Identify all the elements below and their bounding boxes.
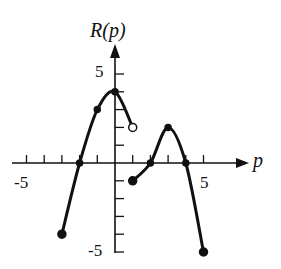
curve-right-piece xyxy=(133,127,204,252)
y-tick-label-5: 5 xyxy=(95,62,104,81)
open-endpoint-marker xyxy=(129,123,137,131)
x-axis-label: p xyxy=(251,149,263,172)
closed-point-marker xyxy=(183,160,189,166)
y-tick-label-neg5: -5 xyxy=(88,241,102,260)
y-axis-label: R(p) xyxy=(89,19,126,42)
point-markers xyxy=(58,89,208,256)
closed-point-marker xyxy=(58,230,66,238)
closed-point-marker xyxy=(147,160,153,166)
closed-point-marker xyxy=(129,177,137,185)
closed-point-marker xyxy=(77,160,83,166)
x-axis-arrow-icon xyxy=(236,158,249,168)
x-tick-label-5: 5 xyxy=(200,173,209,192)
closed-point-marker xyxy=(94,107,100,113)
graph-of-R: p R(p) -5 5 5 -5 xyxy=(0,0,281,269)
x-tick-label-neg5: -5 xyxy=(14,173,28,192)
closed-point-marker xyxy=(165,124,171,130)
y-axis-arrow-icon xyxy=(110,44,120,58)
closed-point-marker xyxy=(112,89,118,95)
axes xyxy=(12,55,240,253)
closed-point-marker xyxy=(200,248,208,256)
